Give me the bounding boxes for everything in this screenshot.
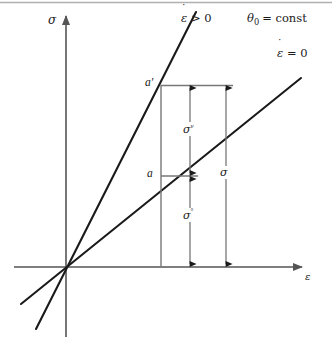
y-axis-label-text: σ: [48, 13, 56, 27]
point-label-a-prime: a′: [145, 77, 153, 89]
epsilon-dot-accent-static: ε˙: [277, 48, 283, 60]
annotation-edot-positive: ε˙ > 0: [181, 13, 212, 25]
relation-fast: > 0: [191, 11, 212, 25]
sigma-static-superscript: °: [191, 208, 194, 216]
epsilon-dot-accent-fast: ε˙: [181, 13, 187, 25]
annotation-theta-const: θ0= const: [247, 13, 307, 27]
annotation-edot-zero: ε˙ = 0: [277, 48, 308, 60]
series-line-edot-positive: [36, 12, 196, 329]
relation-static: = 0: [287, 46, 308, 60]
sigma-viscous-base: σ: [183, 123, 191, 136]
sigma-viscous-superscript: v: [191, 122, 194, 129]
y-axis-label: σ: [48, 14, 56, 26]
sigma-static-base: σ: [183, 209, 191, 222]
x-axis-label-text: ε: [305, 271, 310, 282]
stress-strain-figure: σ ε ε˙ > 0 θ0= const ε˙ = 0 a′ a σv σ° σ: [0, 0, 332, 345]
dimension-label-sigma-total: σ: [218, 166, 230, 179]
dimension-label-sigma-viscous: σv: [181, 122, 196, 136]
theta-subscript: 0: [254, 17, 259, 27]
theta-equals-const: = const: [262, 11, 307, 25]
sigma-total-base: σ: [220, 166, 228, 179]
x-axis-label: ε: [305, 272, 310, 282]
point-label-a: a: [147, 168, 153, 180]
dimension-label-sigma-static: σ°: [181, 208, 195, 222]
point-label-a-text: a: [147, 167, 153, 179]
theta-symbol: θ: [247, 11, 254, 25]
point-label-a-prime-text: a′: [145, 76, 153, 88]
